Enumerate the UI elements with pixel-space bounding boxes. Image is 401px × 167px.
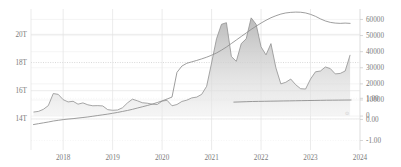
axis-x-tick-label: 2020: [155, 154, 170, 162]
axis-x-tick-label: 2023: [303, 154, 318, 162]
axis-x-tick-label: 2022: [254, 154, 269, 162]
axis-right-secondary: -1.000.001.00: [360, 95, 381, 145]
axis-x-tick-label: 2018: [56, 154, 71, 162]
axis-left-tick-label: 20T: [15, 31, 27, 39]
axis-right-tick-label: 20000: [366, 80, 384, 88]
axis-left-tick-label: 18T: [15, 59, 27, 67]
axis-x-tick-label: 2021: [204, 154, 219, 162]
axis-right-secondary-tick-label: -1.00: [366, 137, 381, 145]
axis-left-tick-label: 16T: [15, 87, 27, 95]
axis-right: 0100002000030000400005000060000: [360, 16, 384, 121]
axis-x-tick-label: 2019: [105, 154, 120, 162]
axis-right-secondary-tick-label: 1.00: [366, 95, 379, 103]
endpoint-marker-icon: ⊙: [345, 111, 349, 116]
dual-axis-timeseries-chart: 14T16T18T20T0100002000030000400005000060…: [0, 0, 401, 167]
series-area-bitcoin-price-fill: [33, 18, 350, 116]
axis-left: 14T16T18T20T: [15, 31, 27, 124]
axis-right-tick-label: 40000: [366, 48, 384, 56]
axis-right-tick-label: 50000: [366, 32, 384, 40]
axis-x: 2018201920202021202220232024: [56, 154, 368, 162]
axis-left-tick-label: 14T: [15, 115, 27, 123]
axis-right-tick-label: 60000: [366, 16, 384, 24]
axis-right-secondary-tick-label: 0.00: [366, 116, 379, 124]
axis-x-tick-label: 2024: [353, 154, 368, 162]
chart-container: 14T16T18T20T0100002000030000400005000060…: [0, 0, 401, 167]
axis-right-tick-label: 30000: [366, 64, 384, 72]
